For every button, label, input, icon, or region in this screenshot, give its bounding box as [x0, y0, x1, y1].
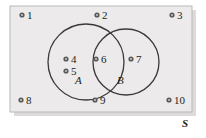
element-dot-1 [19, 12, 24, 17]
element-dot-10 [166, 97, 171, 102]
element-label-7: 7 [136, 54, 142, 65]
element-label-4: 4 [71, 54, 77, 65]
element-dot-7 [128, 56, 133, 61]
element-label-9: 9 [100, 95, 106, 106]
set-a-label: A [75, 75, 82, 86]
element-dot-3 [169, 12, 174, 17]
set-b-label: B [117, 75, 124, 86]
element-dot-2 [94, 12, 99, 17]
element-dot-4 [63, 56, 68, 61]
universe-label: S [182, 118, 188, 129]
element-label-3: 3 [177, 10, 183, 21]
element-dot-5 [63, 68, 68, 73]
element-label-10: 10 [174, 95, 185, 106]
element-dot-9 [92, 97, 97, 102]
element-label-2: 2 [102, 10, 108, 21]
venn-diagram-figure: 1 2 3 4 5 6 7 8 9 10 A B S [0, 0, 206, 138]
element-dot-6 [93, 56, 98, 61]
element-label-1: 1 [27, 10, 33, 21]
element-label-8: 8 [26, 95, 32, 106]
element-label-6: 6 [101, 54, 107, 65]
element-dot-8 [18, 97, 23, 102]
